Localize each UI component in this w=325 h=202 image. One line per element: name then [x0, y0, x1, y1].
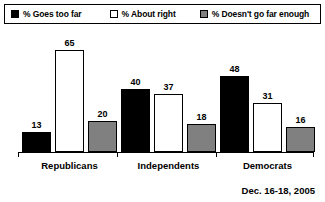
category-label-democrats: Democrats — [220, 160, 315, 171]
bar-group-independents: 40 37 18 — [121, 30, 216, 152]
bar-democrats-goes-too-far — [220, 76, 249, 152]
bar-value-label: 48 — [220, 64, 249, 74]
survey-date-note: Dec. 16-18, 2005 — [242, 185, 315, 196]
bar-independents-doesnt-go-far-enough — [187, 124, 216, 152]
legend-label-goes-too-far: % Goes too far — [23, 9, 82, 19]
x-axis-line — [18, 152, 314, 153]
bar-group-republicans: 13 65 20 — [22, 30, 117, 152]
legend-label-about-right: % About right — [122, 9, 176, 19]
bar-republicans-about-right — [55, 50, 84, 152]
legend-item-goes-too-far: % Goes too far — [11, 9, 82, 19]
legend-label-doesnt-go-far-enough: % Doesn't go far enough — [212, 9, 309, 19]
bar-value-label: 31 — [253, 91, 282, 101]
axis-tick — [18, 153, 19, 157]
bar-value-label: 16 — [286, 115, 315, 125]
category-label-independents: Independents — [121, 160, 216, 171]
bar-value-label: 18 — [187, 112, 216, 122]
bar-value-label: 13 — [22, 120, 51, 130]
bar-value-label: 37 — [154, 82, 183, 92]
axis-tick — [313, 153, 314, 157]
legend-swatch-gray-icon — [200, 10, 208, 18]
bar-value-label: 20 — [88, 109, 117, 119]
bar-democrats-doesnt-go-far-enough — [286, 127, 315, 152]
bar-independents-goes-too-far — [121, 89, 150, 152]
bar-group-democrats: 48 31 16 — [220, 30, 315, 152]
bar-value-label: 65 — [55, 38, 84, 48]
chart-legend: % Goes too far % About right % Doesn't g… — [4, 4, 321, 24]
category-label-republicans: Republicans — [22, 160, 117, 171]
bar-chart: % Goes too far % About right % Doesn't g… — [0, 0, 325, 202]
legend-swatch-white-icon — [110, 10, 118, 18]
plot-area: 13 65 20 40 37 18 — [0, 28, 325, 154]
bar-democrats-about-right — [253, 103, 282, 152]
bar-value-label: 40 — [121, 77, 150, 87]
bar-republicans-doesnt-go-far-enough — [88, 121, 117, 152]
x-axis-category-labels: Republicans Independents Democrats — [0, 160, 325, 176]
bar-republicans-goes-too-far — [22, 132, 51, 152]
bar-independents-about-right — [154, 94, 183, 152]
axis-tick — [117, 153, 118, 157]
legend-swatch-black-icon — [11, 10, 19, 18]
legend-item-doesnt-go-far-enough: % Doesn't go far enough — [200, 9, 309, 19]
legend-item-about-right: % About right — [110, 9, 176, 19]
axis-tick — [216, 153, 217, 157]
